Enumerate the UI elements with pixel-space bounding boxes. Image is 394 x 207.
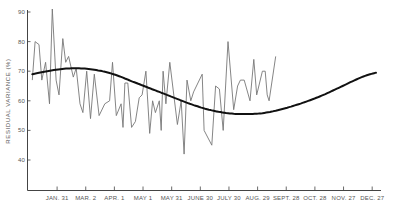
x-tick-label: JAN. 31 (46, 195, 69, 201)
y-tick-label: 70 (18, 68, 26, 74)
observed-series-line (32, 9, 275, 154)
y-tick-label: 60 (18, 98, 26, 104)
x-tick-label: MAY 1 (134, 195, 153, 201)
x-tick-label: JUNE 30 (188, 195, 214, 201)
x-ticks: JAN. 31MAR. 2APR. 1MAY 1MAY 31JUNE 30JUL… (46, 187, 385, 202)
residual-variance-chart: 405060708090 JAN. 31MAR. 2APR. 1MAY 1MAY… (0, 0, 394, 207)
y-tick-label: 50 (18, 127, 26, 133)
y-tick-label: 90 (18, 9, 26, 15)
x-tick-label: APR. 1 (104, 195, 125, 201)
x-tick-label: JULY 30 (217, 195, 241, 201)
x-tick-label: MAR. 2 (75, 195, 97, 201)
y-tick-label: 40 (18, 157, 26, 163)
x-tick-label: DEC. 27 (360, 195, 385, 201)
x-tick-label: MAY 31 (161, 195, 183, 201)
y-ticks: 405060708090 (18, 9, 31, 163)
x-tick-label: AUG. 29 (245, 195, 270, 201)
x-tick-label: NOV. 27 (332, 195, 356, 201)
y-tick-label: 80 (18, 39, 26, 45)
x-tick-label: SEPT. 28 (273, 195, 300, 201)
y-axis-label: RESIDUAL VARIANCE (%) (5, 58, 11, 143)
seasonal-fit-curve (32, 68, 376, 114)
x-tick-label: OCT. 28 (303, 195, 327, 201)
